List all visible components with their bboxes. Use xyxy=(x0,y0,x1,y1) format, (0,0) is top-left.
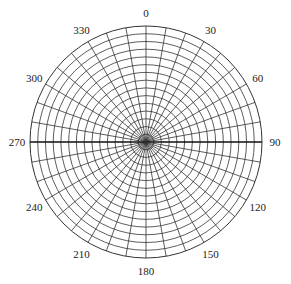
angle-label-240: 240 xyxy=(26,201,43,213)
grid-spokes xyxy=(30,26,262,258)
angle-label-0: 0 xyxy=(143,7,149,19)
angle-label-60: 60 xyxy=(252,72,264,84)
angle-label-120: 120 xyxy=(249,201,266,213)
angle-label-330: 330 xyxy=(73,24,90,36)
angle-label-150: 150 xyxy=(202,248,219,260)
polar-grid: 0306090120150180210240270300330 xyxy=(0,0,291,284)
angle-label-270: 270 xyxy=(9,136,26,148)
angle-label-210: 210 xyxy=(73,248,90,260)
angle-label-300: 300 xyxy=(26,72,43,84)
angle-label-180: 180 xyxy=(138,265,155,277)
angle-label-90: 90 xyxy=(270,136,282,148)
angle-label-30: 30 xyxy=(205,24,217,36)
